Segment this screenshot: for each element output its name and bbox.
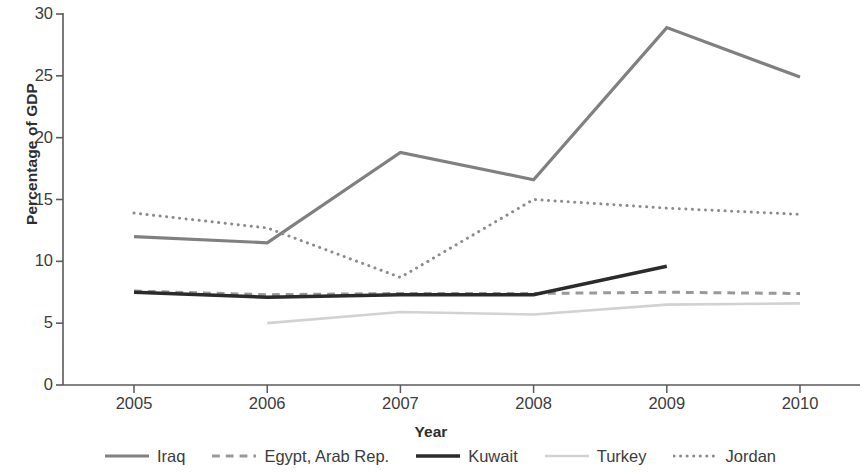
chart-legend: IraqEgypt, Arab Rep.KuwaitTurkeyJordan [0,440,862,472]
light-line-swatch [544,451,590,461]
dotted-line-swatch [673,451,719,461]
line-chart: Percentage of GDP Year 051015202530 2005… [0,0,862,472]
solid-line-swatch [104,451,150,461]
solid-line-swatch [415,451,461,461]
legend-item[interactable]: Turkey [544,447,647,466]
legend-label: Turkey [597,447,647,466]
plot-area [0,0,862,472]
legend-label: Kuwait [468,447,518,466]
dashed-line-swatch [211,451,257,461]
legend-item[interactable]: Egypt, Arab Rep. [211,447,389,466]
legend-label: Jordan [726,447,776,466]
legend-label: Egypt, Arab Rep. [264,447,389,466]
legend-item[interactable]: Jordan [673,447,776,466]
series-line-turkey [267,303,800,323]
series-line-jordan [134,200,800,278]
legend-item[interactable]: Iraq [104,447,185,466]
legend-item[interactable]: Kuwait [415,447,518,466]
legend-label: Iraq [157,447,185,466]
